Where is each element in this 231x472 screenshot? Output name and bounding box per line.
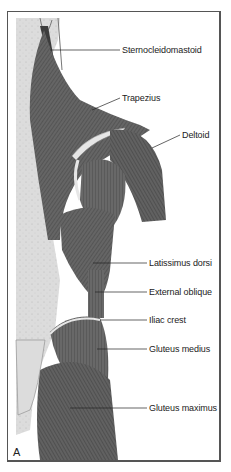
muscle-illustration — [0, 0, 231, 472]
panel-letter: A — [13, 446, 20, 458]
label-trapezius: Trapezius — [122, 93, 160, 103]
label-gluteus-medius: Gluteus medius — [149, 344, 210, 354]
gluteus-maximus-muscle — [37, 362, 118, 460]
label-external-oblique: External oblique — [149, 287, 212, 297]
label-latissimus-dorsi: Latissimus dorsi — [149, 258, 212, 268]
external-oblique-muscle — [88, 270, 104, 318]
label-gluteus-maximus: Gluteus maximus — [149, 403, 217, 413]
label-sternocleidomastoid: Sternocleidomastoid — [122, 45, 202, 55]
label-deltoid: Deltoid — [182, 130, 209, 140]
label-iliac-crest: Iliac crest — [149, 315, 186, 325]
latissimus-dorsi-muscle — [60, 208, 115, 301]
